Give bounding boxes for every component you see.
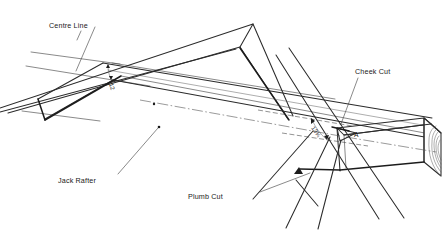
jack-rafter-label: Jack Rafter xyxy=(58,176,96,185)
cheek-cut-label: Cheek Cut xyxy=(355,67,390,76)
rafter-diagram-canvas: Centre Line 12 Cheek Cut 13¾ A Jack Raft… xyxy=(0,0,448,235)
plumb-cut-label: Plumb Cut xyxy=(188,192,223,201)
rafter-diagram-svg: Centre Line 12 Cheek Cut 13¾ A Jack Raft… xyxy=(0,0,448,235)
jack-rafter-leader-dot xyxy=(158,126,161,129)
point-a-label: A xyxy=(354,131,359,138)
centre-line-label: Centre Line xyxy=(49,21,88,30)
centre-line-dot xyxy=(153,103,155,105)
